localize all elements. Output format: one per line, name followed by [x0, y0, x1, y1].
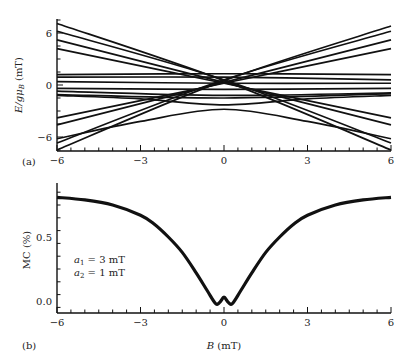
x-tick-label: −6 — [50, 317, 65, 328]
panel-b-magnetoconductance: −6−30360.00.5 MC (%) a1 = 3 mT a2 = 1 mT… — [21, 183, 394, 351]
x-tick-label: −3 — [133, 317, 148, 328]
annotation-a1: a1 = 3 mT — [74, 254, 125, 267]
annotation-a2: a2 = 1 mT — [74, 267, 125, 280]
y-tick-label: 0.0 — [36, 296, 52, 307]
energy-level-falling-3 — [57, 31, 391, 143]
panel-a-label: (a) — [22, 156, 36, 167]
x-tick-label: 0 — [221, 317, 227, 328]
x-tick-label: 6 — [388, 155, 394, 166]
energy-level-lines — [57, 23, 391, 150]
energy-level-rising-3 — [57, 31, 391, 143]
panel-b-label: (b) — [22, 340, 36, 351]
mc-curve-line — [57, 197, 391, 304]
panel-a-y-axis-label: E/gμB (mT) — [13, 57, 26, 114]
energy-level-arch-upper — [57, 95, 391, 105]
x-tick-label: 3 — [304, 317, 310, 328]
x-tick-label: −6 — [50, 155, 65, 166]
y-tick-label: 6 — [46, 28, 52, 39]
panel-a-energy-levels: −6−3036−606 E/gμB (mT) (a) — [13, 19, 394, 167]
x-tick-label: 6 — [388, 317, 394, 328]
x-tick-label: 0 — [221, 155, 227, 166]
figure: −6−3036−606 E/gμB (mT) (a) −6−30360.00.5… — [0, 0, 413, 361]
mc-curve — [57, 197, 391, 304]
energy-level-flat-1 — [57, 74, 391, 75]
y-tick-label: −6 — [37, 132, 52, 143]
y-tick-label: 0.5 — [36, 232, 52, 243]
panel-b-x-axis-label: B (mT) — [206, 340, 242, 351]
x-tick-label: 3 — [304, 155, 310, 166]
panel-b-y-axis-label: MC (%) — [21, 231, 32, 269]
energy-level-flat-4 — [57, 88, 391, 89]
y-tick-label: 0 — [46, 80, 52, 91]
x-tick-label: −3 — [133, 155, 148, 166]
